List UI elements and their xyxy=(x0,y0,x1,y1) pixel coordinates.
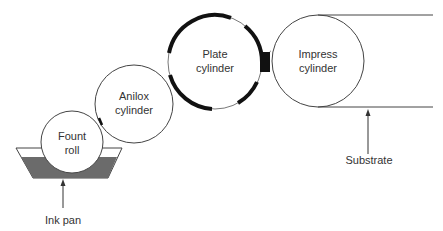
impress-label-1: Impress xyxy=(298,48,338,60)
anilox-label-2: cylinder xyxy=(115,104,153,116)
impress-cylinder: Impress cylinder xyxy=(272,15,364,107)
fount-roll: Fount roll xyxy=(41,111,103,173)
anilox-cylinder: Anilox cylinder xyxy=(95,65,173,143)
fount-roll-label-1: Fount xyxy=(58,130,86,142)
ink-pan-label: Ink pan xyxy=(45,214,81,226)
substrate-label: Substrate xyxy=(345,154,392,166)
fount-roll-label-2: roll xyxy=(65,144,80,156)
anilox-label-1: Anilox xyxy=(119,90,149,102)
flexo-printing-diagram: Fount roll Anilox cylinder Plate cylinde… xyxy=(0,0,443,231)
impress-label-2: cylinder xyxy=(299,62,337,74)
plate-cylinder: Plate cylinder xyxy=(168,15,271,109)
plate-label-2: cylinder xyxy=(196,62,234,74)
substrate-arrow xyxy=(366,109,371,154)
ink-pan-arrow xyxy=(61,179,66,208)
plate-label-1: Plate xyxy=(202,48,227,60)
